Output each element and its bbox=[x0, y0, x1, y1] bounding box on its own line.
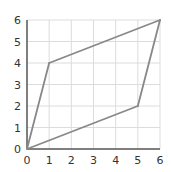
x-tick-label: 6 bbox=[157, 154, 164, 167]
grid bbox=[27, 20, 160, 149]
x-tick-label: 3 bbox=[90, 154, 97, 167]
chart: 01234560123456 bbox=[0, 0, 171, 172]
vertex-point bbox=[26, 148, 28, 150]
y-tick-label: 1 bbox=[14, 122, 21, 135]
y-tick-label: 2 bbox=[14, 100, 21, 113]
y-tick-label: 0 bbox=[14, 143, 21, 156]
y-tick-label: 3 bbox=[14, 79, 21, 92]
y-tick-label: 6 bbox=[14, 14, 21, 27]
x-tick-label: 0 bbox=[24, 154, 31, 167]
x-tick-label: 4 bbox=[112, 154, 119, 167]
vertex-point bbox=[48, 62, 50, 64]
y-tick-label: 4 bbox=[14, 57, 21, 70]
vertex-point bbox=[159, 19, 161, 21]
x-tick-label: 5 bbox=[134, 154, 141, 167]
x-tick-label: 2 bbox=[68, 154, 75, 167]
y-tick-label: 5 bbox=[14, 36, 21, 49]
x-tick-label: 1 bbox=[46, 154, 53, 167]
vertex-point bbox=[137, 105, 139, 107]
